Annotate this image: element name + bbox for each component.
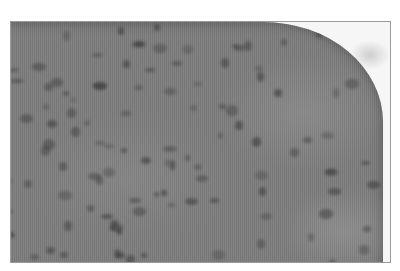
nucleus — [30, 254, 38, 260]
nucleus — [64, 221, 72, 231]
nucleus — [121, 148, 126, 153]
nucleus — [32, 63, 45, 71]
nucleus — [101, 214, 113, 219]
nucleus — [363, 226, 371, 232]
nucleus — [185, 198, 198, 205]
nucleus — [116, 253, 124, 259]
nucleus — [165, 159, 170, 166]
nucleus — [154, 192, 160, 196]
nucleus — [51, 78, 63, 87]
nucleus — [141, 157, 151, 164]
nucleus — [145, 68, 155, 72]
nucleus — [324, 169, 338, 176]
nucleus — [46, 247, 56, 254]
micrograph-frame — [10, 21, 391, 263]
nucleus — [367, 181, 380, 189]
nucleus — [361, 161, 370, 166]
nucleus — [24, 180, 32, 188]
nucleus — [172, 61, 182, 65]
nucleus — [131, 42, 144, 47]
nucleus — [235, 121, 242, 130]
nucleus — [58, 191, 72, 200]
nucleus — [170, 160, 176, 169]
nucleus — [126, 255, 135, 263]
nucleus — [329, 259, 336, 263]
nucleus — [328, 188, 342, 194]
nucleus — [210, 198, 219, 202]
nucleus — [92, 53, 103, 57]
nucleus — [121, 111, 131, 115]
nucleus — [67, 108, 76, 118]
nucleus — [10, 79, 24, 83]
nucleus — [47, 120, 57, 128]
nucleus — [194, 164, 202, 170]
nucleus — [345, 79, 359, 89]
nucleus — [259, 187, 265, 196]
nucleus — [196, 175, 208, 183]
nucleus — [185, 155, 191, 161]
nucleus — [308, 233, 313, 241]
nucleus — [281, 39, 287, 46]
nucleus — [134, 85, 142, 90]
nucleus — [226, 105, 237, 116]
nucleus — [133, 207, 146, 216]
tissue-section — [10, 22, 383, 263]
nucleus — [161, 190, 167, 196]
nucleus — [153, 44, 167, 54]
nucleus — [87, 205, 95, 211]
nucleus — [163, 146, 177, 152]
nucleus — [183, 45, 193, 54]
nucleus — [218, 132, 223, 139]
nucleus — [212, 250, 225, 259]
nucleus — [290, 148, 299, 157]
nucleus — [244, 41, 252, 50]
nucleus — [219, 104, 225, 109]
nucleus — [10, 68, 19, 72]
nucleus — [96, 176, 103, 185]
nucleus — [255, 171, 268, 180]
nucleus — [10, 209, 12, 214]
nucleus — [234, 45, 244, 51]
nucleus — [193, 82, 201, 87]
nucleus — [84, 120, 90, 127]
nucleus — [141, 253, 147, 258]
nucleus — [333, 88, 339, 98]
nucleus — [59, 162, 66, 171]
